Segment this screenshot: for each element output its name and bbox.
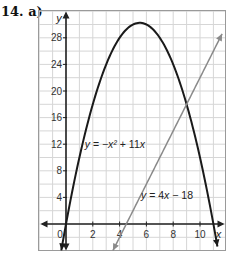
y-tick-label: 12 (51, 139, 63, 150)
equation-label: y = 4x − 18 (140, 189, 193, 201)
equation-labels: y = −x² + 11xy = 4x − 18 (84, 138, 193, 201)
x-tick-label: 0 (57, 229, 63, 240)
x-tick-label: 6 (144, 229, 150, 240)
y-tick-label: 8 (56, 165, 62, 176)
y-tick-label: 16 (51, 112, 63, 123)
x-tick-label: 10 (194, 229, 206, 240)
y-tick-label: 4 (56, 192, 62, 203)
y-tick-label: 24 (51, 59, 63, 70)
x-tick-label: 8 (170, 229, 176, 240)
y-axis-arrow-icon (63, 12, 70, 19)
y-tick-label: 20 (51, 86, 63, 97)
chart: 0246810481216202428xy y = −x² + 11xy = 4… (0, 0, 237, 260)
x-axis-left-arrow-icon (41, 221, 48, 228)
x-axis-arrow-icon (218, 221, 225, 228)
equation-label: y = −x² + 11x (84, 138, 146, 150)
y-axis-label: y (55, 12, 63, 24)
y-tick-label: 28 (51, 32, 63, 43)
x-tick-label: 2 (90, 229, 96, 240)
